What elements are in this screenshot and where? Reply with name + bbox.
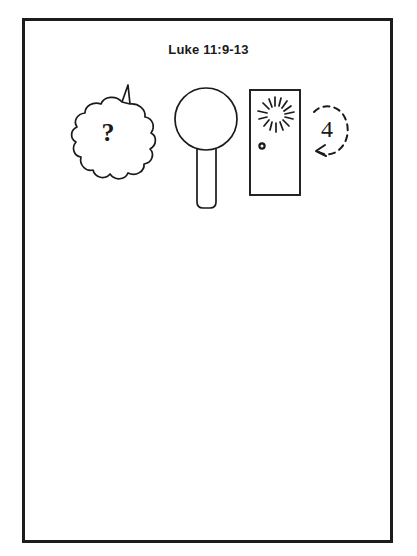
- door-knob-icon: [259, 143, 264, 148]
- worksheet-page: Luke 11:9-13 ?: [0, 0, 417, 556]
- lollipop-icon: [170, 82, 244, 214]
- circular-arrow-figure: 4: [306, 100, 364, 166]
- door-icon: [244, 82, 306, 202]
- thought-cloud-figure: ?: [66, 82, 162, 186]
- page-title: Luke 11:9-13: [0, 42, 417, 57]
- lollipop-figure: [170, 82, 244, 214]
- door-figure: [244, 82, 306, 202]
- arrow-head-icon: [316, 145, 326, 156]
- knock-burst-icon: [258, 97, 294, 132]
- repeat-count-label: 4: [316, 114, 338, 144]
- question-mark-label: ?: [96, 118, 120, 148]
